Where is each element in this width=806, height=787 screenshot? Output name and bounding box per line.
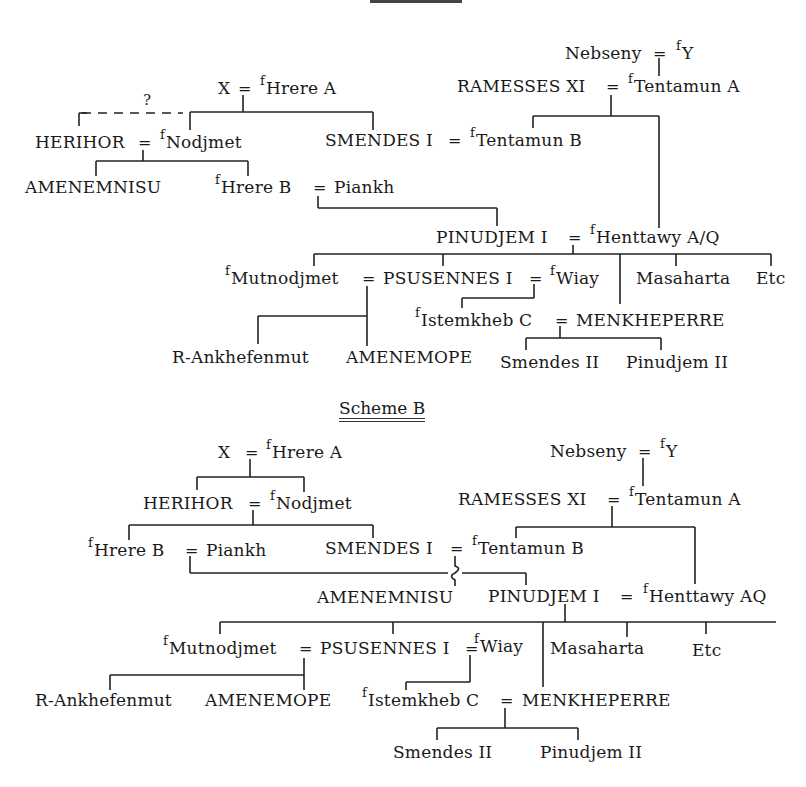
person-henttawy: fHenttawy A/Q — [590, 227, 720, 249]
marriage-symbol: = — [653, 44, 666, 64]
person-etc: Etc — [756, 268, 785, 288]
person-tentamun-b: fTentamun B — [472, 538, 584, 560]
marriage-symbol: = — [555, 311, 568, 331]
marriage-symbol: = — [638, 442, 651, 462]
person-tentamun-a: fTentamun A — [628, 76, 740, 98]
person-mutnodjmet: fMutnodjmet — [163, 638, 277, 660]
person-ramesses-xi: RAMESSES XI — [457, 76, 585, 96]
person-istemkheb-c: fIstemkheb C — [415, 310, 532, 332]
person-nodjmet: fNodjmet — [160, 132, 242, 154]
marriage-symbol: = — [450, 539, 463, 559]
person-hrere-a: fHrere A — [266, 442, 342, 464]
person-tentamun-a: fTentamun A — [629, 489, 741, 511]
family-tree-lines — [0, 0, 806, 787]
person-henttawy: fHenttawy AQ — [643, 586, 767, 608]
person-herihor: HERIHOR — [143, 493, 233, 513]
genealogy-diagram: ? X = fHrere A Nebseny = fY RAMESSES XI … — [0, 0, 806, 787]
person-amenemnisu: AMENEMNISU — [25, 177, 161, 197]
person-hrere-b: fHrere B — [88, 540, 165, 562]
person-menkheperre: MENKHEPERRE — [522, 690, 671, 710]
person-pinudjem-ii: Pinudjem II — [626, 352, 728, 372]
uncertain-mark: ? — [143, 91, 151, 109]
marriage-symbol: = — [620, 587, 633, 607]
person-ramesses-xi: RAMESSES XI — [458, 489, 586, 509]
person-tentamun-b: fTentamun B — [470, 130, 582, 152]
person-y: fY — [676, 43, 693, 65]
marriage-symbol: = — [568, 228, 581, 248]
person-piankh: Piankh — [334, 177, 394, 197]
person-pinudjem-ii: Pinudjem II — [540, 742, 642, 762]
person-masaharta: Masaharta — [550, 638, 644, 658]
person-smendes-ii: Smendes II — [500, 352, 599, 372]
marriage-symbol: = — [313, 178, 326, 198]
marriage-symbol: = — [529, 269, 542, 289]
person-hrere-b: fHrere B — [215, 177, 292, 199]
person-piankh: Piankh — [206, 540, 266, 560]
person-etc: Etc — [692, 640, 721, 660]
marriage-symbol: = — [245, 443, 258, 463]
person-r-ankhefenmut: R-Ankhefenmut — [172, 347, 309, 367]
scheme-b-heading: Scheme B — [339, 398, 425, 422]
marriage-symbol: = — [248, 494, 261, 514]
person-nodjmet: fNodjmet — [270, 493, 352, 515]
marriage-symbol: = — [448, 131, 461, 151]
person-herihor: HERIHOR — [35, 132, 125, 152]
person-pinudjem-i: PINUDJEM I — [436, 227, 548, 247]
person-y: fY — [660, 441, 677, 463]
person-masaharta: Masaharta — [636, 268, 730, 288]
marriage-symbol: = — [606, 77, 619, 97]
marriage-symbol: = — [500, 691, 513, 711]
person-amenemnisu: AMENEMNISU — [317, 587, 453, 607]
person-amenemope: AMENEMOPE — [346, 347, 472, 367]
marriage-symbol: = — [185, 541, 198, 561]
person-smendes-i: SMENDES I — [325, 130, 433, 150]
marriage-symbol: = — [607, 490, 620, 510]
person-nebseny: Nebseny — [550, 441, 627, 461]
scheme-a-heading-underline — [370, 0, 462, 3]
marriage-symbol: = — [238, 79, 251, 99]
person-wiay: fWiay — [474, 636, 523, 658]
person-istemkheb-c: fIstemkheb C — [362, 690, 479, 712]
person-amenemope: AMENEMOPE — [205, 690, 331, 710]
person-r-ankhefenmut: R-Ankhefenmut — [35, 690, 172, 710]
marriage-symbol: = — [138, 133, 151, 153]
person-mutnodjmet: fMutnodjmet — [225, 268, 339, 290]
person-psusennes-i: PSUSENNES I — [383, 268, 513, 288]
person-hrere-a: fHrere A — [260, 78, 336, 100]
person-nebseny: Nebseny — [565, 43, 642, 63]
person-pinudjem-i: PINUDJEM I — [488, 586, 600, 606]
marriage-symbol: = — [299, 639, 312, 659]
marriage-symbol: = — [362, 269, 375, 289]
person-wiay: fWiay — [550, 268, 599, 290]
person-psusennes-i: PSUSENNES I — [320, 638, 450, 658]
person-x: X — [218, 78, 230, 98]
person-menkheperre: MENKHEPERRE — [576, 310, 725, 330]
person-smendes-ii: Smendes II — [393, 742, 492, 762]
person-x: X — [218, 442, 230, 462]
person-smendes-i: SMENDES I — [325, 538, 433, 558]
